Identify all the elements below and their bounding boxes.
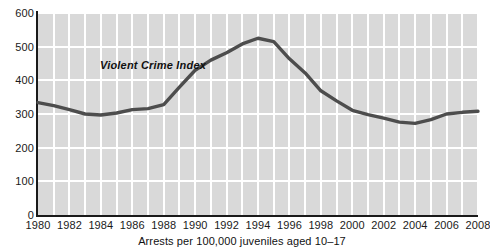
x-tick-label-2000: 2000 xyxy=(340,219,365,232)
x-tick-label-1998: 1998 xyxy=(308,219,333,232)
y-tick-label-600: 600 xyxy=(0,8,34,19)
series-annotation-label: Violent Crime Index xyxy=(100,59,206,71)
y-tick-label-500: 500 xyxy=(0,42,34,53)
x-tick-label-1994: 1994 xyxy=(246,219,271,232)
x-tick-label-1982: 1982 xyxy=(57,219,82,232)
x-tick-label-1980: 1980 xyxy=(26,219,51,232)
y-tick-label-100: 100 xyxy=(0,176,34,187)
x-tick-label-1990: 1990 xyxy=(183,219,208,232)
x-tick-label-1992: 1992 xyxy=(214,219,239,232)
x-tick-label-2004: 2004 xyxy=(403,219,428,232)
x-axis-spine xyxy=(36,215,478,217)
x-tick-label-1996: 1996 xyxy=(277,219,302,232)
x-tick-label-1984: 1984 xyxy=(88,219,113,232)
y-tick-label-400: 400 xyxy=(0,75,34,86)
x-tick-label-1988: 1988 xyxy=(151,219,176,232)
plot-area xyxy=(38,13,478,215)
x-tick-label-2006: 2006 xyxy=(434,219,459,232)
series-line-violent-crime-index xyxy=(38,13,478,215)
x-axis: 1980198219841986198819901992199419961998… xyxy=(0,219,484,235)
x-tick-label-1986: 1986 xyxy=(120,219,145,232)
x-tick-label-2002: 2002 xyxy=(371,219,396,232)
y-tick-label-200: 200 xyxy=(0,143,34,154)
x-tick-label-2008: 2008 xyxy=(466,219,490,232)
y-axis: 0100200300400500600 xyxy=(0,0,34,250)
chart-caption: Arrests per 100,000 juveniles aged 10–17 xyxy=(0,235,484,247)
y-tick-label-300: 300 xyxy=(0,109,34,120)
